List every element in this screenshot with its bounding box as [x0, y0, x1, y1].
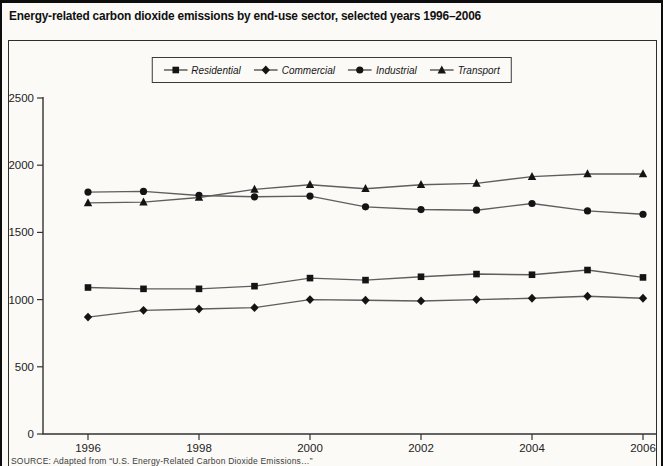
chart-figure: Energy-related carbon dioxide emissions …: [0, 0, 663, 466]
marker-commercial-2004: [528, 294, 536, 303]
y-tick-label: 2000: [8, 159, 34, 171]
marker-transport-2000: [306, 180, 314, 188]
marker-commercial-2003: [472, 295, 480, 304]
marker-commercial-2001: [361, 296, 369, 305]
y-tick-label: 2500: [8, 92, 34, 104]
marker-commercial-1998: [195, 305, 203, 314]
x-tick-label: 1996: [75, 442, 101, 454]
line-chart: 0500100015002000250019961998200020022004…: [0, 0, 663, 466]
marker-industrial-1997: [140, 188, 147, 195]
y-tick-label: 1000: [8, 294, 34, 306]
source-note: SOURCE: Adapted from “U.S. Energy-Relate…: [11, 456, 313, 466]
marker-industrial-2004: [528, 200, 535, 207]
marker-commercial-2006: [639, 294, 647, 303]
marker-commercial-2005: [583, 292, 591, 301]
marker-industrial-2002: [417, 206, 424, 213]
marker-commercial-1999: [250, 303, 258, 312]
marker-residential-2002: [418, 273, 425, 280]
marker-residential-2004: [529, 271, 536, 278]
marker-residential-2001: [362, 277, 369, 284]
marker-residential-1997: [140, 286, 147, 293]
marker-residential-2006: [640, 274, 647, 281]
x-tick-label: 2002: [408, 442, 434, 454]
y-tick-label: 0: [28, 428, 34, 440]
marker-industrial-2003: [473, 207, 480, 214]
marker-residential-1998: [196, 286, 203, 293]
marker-commercial-2000: [306, 295, 314, 304]
marker-residential-2005: [584, 267, 591, 274]
marker-industrial-2001: [362, 203, 369, 210]
y-tick-label: 1500: [8, 226, 34, 238]
axes: [43, 97, 656, 434]
marker-residential-2003: [473, 271, 480, 278]
x-tick-label: 1998: [186, 442, 212, 454]
marker-industrial-1996: [84, 188, 91, 195]
marker-residential-1999: [251, 283, 258, 290]
marker-commercial-1996: [84, 313, 92, 322]
series-line-industrial: [88, 191, 643, 214]
marker-commercial-2002: [417, 297, 425, 306]
x-tick-label: 2000: [297, 442, 323, 454]
x-tick-label: 2006: [630, 442, 656, 454]
marker-industrial-2006: [639, 211, 646, 218]
y-tick-label: 500: [15, 361, 34, 373]
marker-industrial-2005: [584, 207, 591, 214]
x-tick-label: 2004: [519, 442, 545, 454]
marker-residential-2000: [307, 275, 314, 282]
marker-residential-1996: [85, 284, 92, 291]
marker-commercial-1997: [139, 306, 147, 315]
marker-industrial-2000: [306, 193, 313, 200]
marker-industrial-1999: [251, 193, 258, 200]
